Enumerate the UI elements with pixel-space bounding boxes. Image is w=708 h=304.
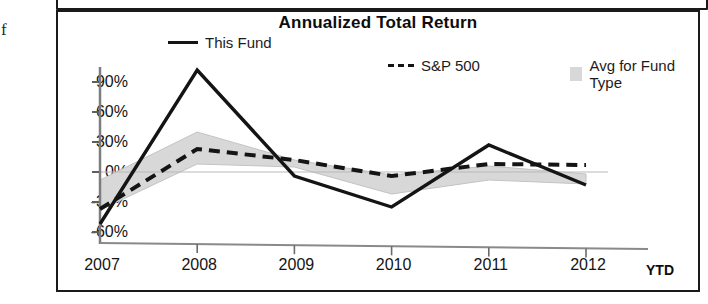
series-band-avg-fund-type <box>100 132 586 210</box>
x-axis-line <box>100 243 648 249</box>
